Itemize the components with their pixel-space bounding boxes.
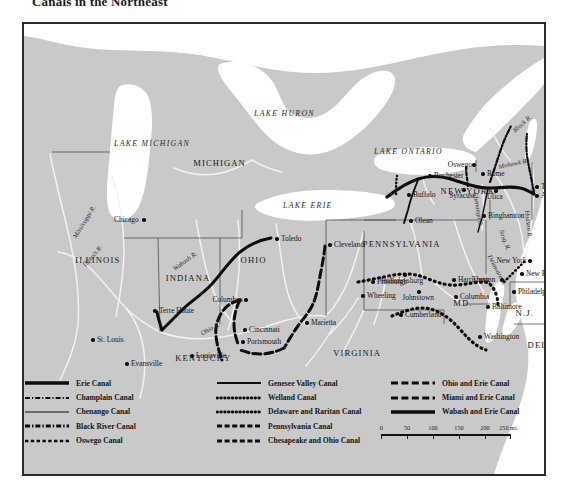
scale-axis [381,434,511,436]
city-label: Toledo [281,235,301,242]
city-label: Rome [487,170,505,177]
scale-tick-label: 0 [380,424,383,431]
city-dot [361,294,364,297]
legend-line-sample-dash-dot-heavy [24,421,70,431]
city-label: Trenton [472,276,495,283]
scale-tick-mark [381,434,382,439]
city-label: Hollidaysburg [381,277,423,284]
legend-line-sample-dotted [216,393,262,403]
state-label: PENNSYLVANIA [363,240,441,249]
city-dot [409,219,412,222]
legend-item[interactable]: Genesee Valley Canal [216,376,361,390]
city-label: Oswego [448,161,472,168]
scale-tick-mark [510,434,511,439]
city-label: Terre Haute [159,307,194,314]
city-label: New Brunswick [526,270,546,277]
scale-tick-mark [407,434,408,439]
scale-tick-label: 150 [454,424,463,431]
state-label: MICHIGAN [193,159,246,168]
scale-tick-mark [433,434,434,439]
legend-item[interactable]: Wabash and Erie Canal [390,405,519,419]
city-dot [535,194,538,197]
city-label: Syracuse [449,192,476,199]
city-dot [528,259,531,262]
legend-line-sample-dash-long [390,393,436,403]
legend-item[interactable]: Pennsylvania Canal [216,419,361,433]
scale-tick-mark [459,434,460,439]
city-dot [91,338,94,341]
city-dot [241,340,244,343]
legend-line-sample-dash-long [390,378,436,388]
legend-item[interactable]: Champlain Canal [24,390,136,404]
map-figure: Canals in the Northeast [0,0,569,498]
legend-item-label: Genesee Valley Canal [268,379,338,388]
legend-item-label: Oswego Canal [76,436,123,445]
legend-line-sample-dash-block [216,436,262,446]
city-label: Olean [415,217,433,224]
legend-item[interactable]: Erie Canal [24,376,136,390]
city-dot [481,172,484,175]
canal-ohio-erie [284,246,325,348]
legend-line-sample-dash-block [216,421,262,431]
legend-item-label: Welland Canal [268,393,316,402]
scale-tick-label: 100 [428,424,437,431]
city-label: Troy [541,183,546,190]
legend-item[interactable]: Chesapeake and Ohio Canal [216,434,361,448]
legend-item[interactable]: Welland Canal [216,390,361,404]
city-label: Columbus [212,296,242,303]
city-label: Chicago [114,216,139,223]
city-dot [153,309,156,312]
city-dot [407,193,410,196]
legend-item-label: Champlain Canal [76,393,134,402]
scale-tick-labels: 050100150200250 mi. [381,424,511,433]
city-dot [305,321,308,324]
city-label: New York [496,257,526,264]
city-label: Cincinnati [249,326,280,333]
legend-item-label: Chesapeake and Ohio Canal [268,436,360,445]
legend-line-sample-dotted [216,407,262,417]
city-label: Evansville [131,360,162,367]
city-label: Utica [487,193,503,200]
legend-item[interactable]: Ohio and Erie Canal [390,376,519,390]
city-label: Albany [541,192,546,199]
city-dot [275,237,278,240]
city-label: Portsmouth [247,338,281,345]
figure-title: Canals in the Northeast [32,0,168,6]
scale-tick-label: 250 mi. [499,424,518,431]
city-label: Johnstown [402,294,434,301]
legend-item[interactable]: Delaware and Raritan Canal [216,405,361,419]
city-label: Wheeling [367,292,396,299]
legend-item-label: Pennsylvania Canal [268,422,332,431]
canal-ohio-erie-b [240,348,284,354]
legend-item-label: Black River Canal [76,422,136,431]
legend-item[interactable]: Chenango Canal [24,405,136,419]
city-label: Cleveland [334,241,364,248]
legend-column-3: Ohio and Erie CanalMiami and Erie CanalW… [390,376,519,419]
city-dot [500,278,503,281]
city-dot [478,335,481,338]
city-dot [190,354,193,357]
legend-column-2: Genesee Valley CanalWelland CanalDelawar… [216,376,361,448]
legend-line-sample-dash-dot [24,393,70,403]
legend-line-sample-solid-thick [390,407,436,417]
city-dot [244,298,247,301]
legend-item[interactable]: Oswego Canal [24,434,136,448]
legend-item-label: Ohio and Erie Canal [442,379,509,388]
scale-tick-label: 50 [404,424,410,431]
city-dot [486,305,489,308]
city-dot [472,163,475,166]
legend-item-label: Wabash and Erie Canal [442,407,519,416]
city-label: Marietta [311,319,336,326]
city-dot [535,185,538,188]
city-label: Rochester [434,172,464,179]
lake-label: LAKE HURON [254,110,315,118]
city-label: Louisville [196,352,226,359]
city-dot [142,218,145,221]
legend-item[interactable]: Black River Canal [24,419,136,433]
legend-line-sample-solid-thick [24,378,70,388]
legend-item[interactable]: Miami and Erie Canal [390,390,519,404]
city-label: St. Louis [97,336,124,343]
city-dot [520,272,523,275]
legend-item-label: Chenango Canal [76,407,130,416]
city-dot [399,313,402,316]
